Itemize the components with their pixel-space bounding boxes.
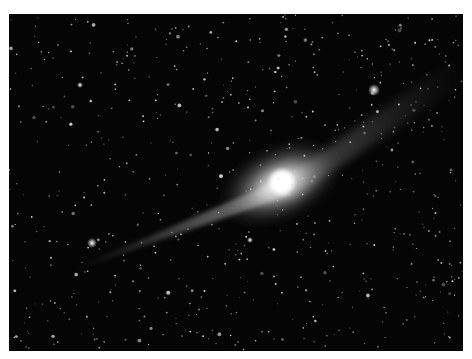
bright-star [87, 238, 97, 248]
bright-star [368, 84, 380, 96]
comet-photo [9, 14, 463, 351]
star-field [9, 14, 463, 351]
